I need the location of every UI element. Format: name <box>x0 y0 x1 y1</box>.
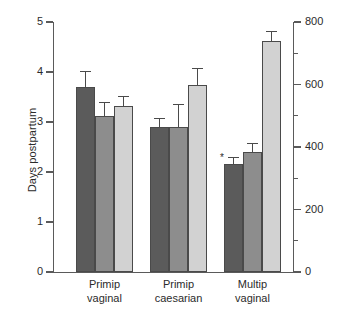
bar <box>150 127 169 273</box>
y-axis-right-minor-tick <box>294 240 298 241</box>
y-axis-left-tick-label: 5 <box>21 15 43 27</box>
y-axis-right-tick <box>294 271 301 272</box>
bar-chart-figure: Days postpartum Milk production (g/day) … <box>0 0 340 311</box>
error-bar-cap <box>247 143 258 144</box>
y-axis-left-tick-label: 2 <box>21 165 43 177</box>
y-axis-left-label: Days postpartum <box>26 60 38 240</box>
x-axis-category-label: Multipvaginal <box>198 277 308 305</box>
y-axis-right-tick-label: 600 <box>305 78 339 90</box>
y-axis-right-tick-label: 0 <box>305 265 339 277</box>
bar-group <box>150 22 207 272</box>
y-axis-right-minor-tick <box>294 115 298 116</box>
bar <box>76 87 95 273</box>
bar <box>224 164 243 273</box>
y-axis-right-tick-label: 400 <box>305 140 339 152</box>
error-bar-cap <box>154 118 165 119</box>
y-axis-left-tick-label: 1 <box>21 215 43 227</box>
error-bar-cap <box>173 104 184 105</box>
error-bar-cap <box>118 96 129 97</box>
bar <box>262 41 281 273</box>
error-bar-cap <box>99 102 110 103</box>
y-axis-left-tick <box>46 21 53 22</box>
error-bar-stem <box>85 71 86 87</box>
bar <box>243 152 262 273</box>
x-axis-category-label-line: Primip <box>89 278 120 290</box>
error-bar-cap <box>228 157 239 158</box>
y-axis-left-tick <box>46 121 53 122</box>
y-axis-right-tick <box>294 146 301 147</box>
error-bar-stem <box>271 31 272 41</box>
bar-group: * <box>224 22 281 272</box>
y-axis-left-tick <box>46 271 53 272</box>
y-axis-right-tick-label: 200 <box>305 203 339 215</box>
plot-area: * <box>54 22 293 272</box>
error-bar-stem <box>159 118 160 127</box>
y-axis-right-minor-tick <box>294 178 298 179</box>
y-axis-left-tick <box>46 221 53 222</box>
x-axis-category-label-line: Multip <box>238 278 267 290</box>
bar <box>114 106 133 272</box>
x-axis-category-label-line: Primip <box>163 278 194 290</box>
error-bar-stem <box>252 143 253 152</box>
bar <box>188 85 207 273</box>
bar <box>169 127 188 273</box>
y-axis-left-tick <box>46 171 53 172</box>
error-bar-cap <box>192 68 203 69</box>
bar-group <box>76 22 133 272</box>
bar <box>95 116 114 273</box>
error-bar-cap <box>80 71 91 72</box>
y-axis-left-tick <box>46 71 53 72</box>
y-axis-right-tick <box>294 21 301 22</box>
x-axis-category-label-line: vaginal <box>198 291 308 305</box>
significance-asterisk: * <box>220 154 224 162</box>
y-axis-left-tick-label: 3 <box>21 115 43 127</box>
y-axis-right-tick-label: 800 <box>305 15 339 27</box>
y-axis-right-minor-tick <box>294 53 298 54</box>
y-axis-right-tick <box>294 209 301 210</box>
error-bar-stem <box>178 104 179 127</box>
error-bar-stem <box>123 96 124 106</box>
y-axis-right-tick <box>294 84 301 85</box>
y-axis-left-tick-label: 0 <box>21 265 43 277</box>
x-axis-spine <box>53 272 295 273</box>
y-axis-left-tick-label: 4 <box>21 65 43 77</box>
error-bar-cap <box>266 31 277 32</box>
error-bar-stem <box>104 102 105 116</box>
error-bar-stem <box>197 68 198 85</box>
